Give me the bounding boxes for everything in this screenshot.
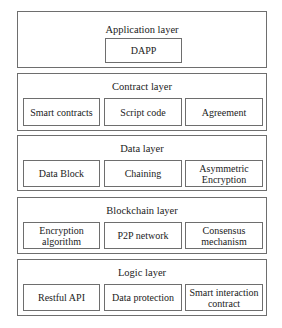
contract-layer-title: Contract layer — [18, 81, 266, 93]
application-layer-title: Application layer — [18, 24, 266, 36]
p2p-network-box: P2P network — [104, 222, 182, 249]
blockchain-layer: Blockchain layer Encryption algorithm P2… — [17, 197, 267, 254]
data-layer: Data layer Data Block Chaining Asymmetri… — [17, 135, 267, 191]
contract-layer: Contract layer Smart contracts Script co… — [17, 73, 267, 131]
logic-layer: Logic layer Restful API Data protection … — [17, 259, 267, 316]
script-code-box: Script code — [104, 98, 182, 126]
data-protection-box: Data protection — [104, 284, 182, 311]
logic-layer-title: Logic layer — [18, 267, 266, 279]
chaining-box: Chaining — [104, 160, 182, 187]
restful-api-box: Restful API — [23, 284, 100, 311]
encryption-algorithm-box: Encryption algorithm — [23, 222, 100, 249]
smart-interaction-contract-box: Smart interaction contract — [185, 284, 263, 311]
dapp-box: DAPP — [105, 38, 182, 63]
smart-contracts-box: Smart contracts — [23, 98, 100, 126]
consensus-mechanism-box: Consensus mechanism — [185, 222, 263, 249]
data-layer-title: Data layer — [18, 143, 266, 155]
asymmetric-encryption-box: Asymmetric Encryption — [185, 160, 263, 187]
blockchain-layer-title: Blockchain layer — [18, 205, 266, 217]
application-layer: Application layer DAPP — [17, 11, 267, 68]
agreement-box: Agreement — [185, 98, 263, 126]
data-block-box: Data Block — [23, 160, 100, 187]
